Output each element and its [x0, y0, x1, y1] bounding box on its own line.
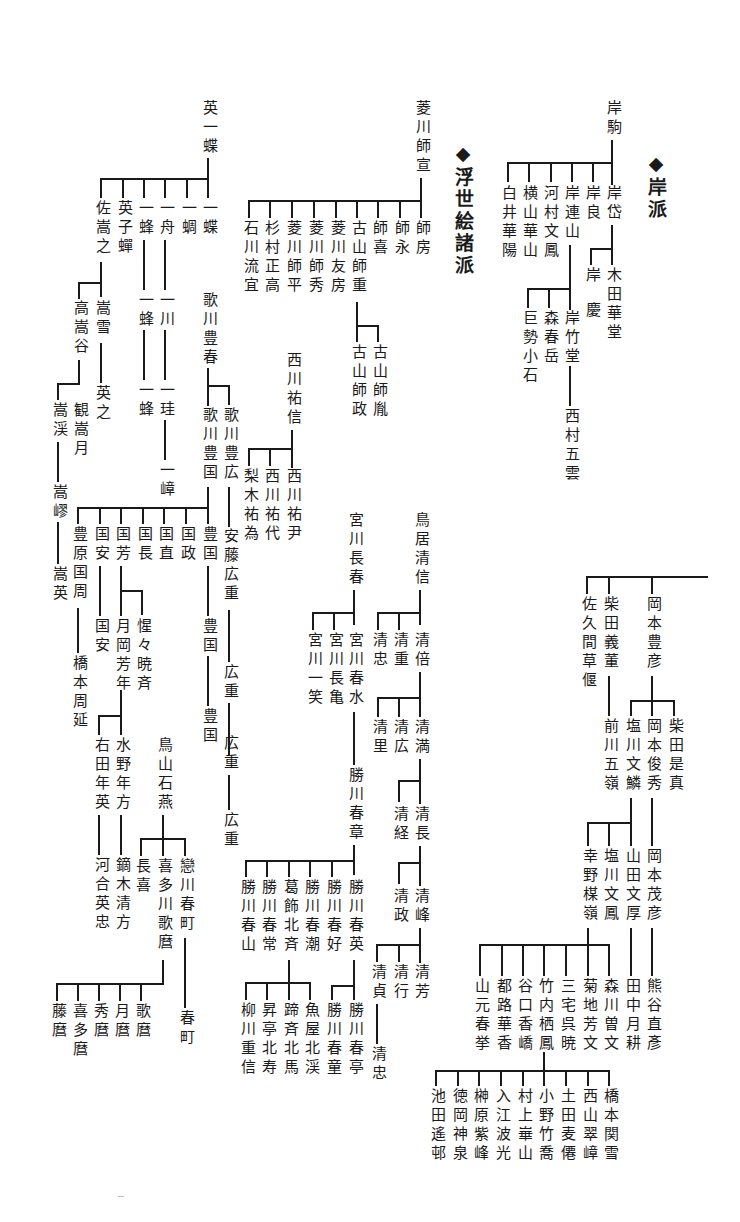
name-ishikawa-ryusen: 石川流宜 — [241, 220, 258, 296]
name-tanaka-gekko: 田中月耕 — [623, 978, 640, 1054]
name-hiroshige-3: 広重 — [221, 735, 238, 773]
name-kunimasa: 国政 — [178, 526, 195, 564]
name-kiyosada: 清貞 — [369, 964, 386, 1002]
name-tokuoka-shinsen: 徳岡神泉 — [450, 1088, 467, 1164]
name-yanagawa-shigenobu: 柳川重信 — [238, 1002, 255, 1078]
name-kiyotada-2: 清忠 — [369, 1046, 386, 1084]
name-furuyama-euromasa: 古山師政 — [349, 344, 366, 420]
heading-kishi-school: ◆岸派 — [645, 152, 667, 221]
name-shibata-zeshin: 柴田是真 — [666, 718, 683, 794]
name-yamamoto-shunkyo: 山元春挙 — [472, 978, 489, 1054]
name-kuninao: 国直 — [156, 526, 173, 564]
name-okamoto-shunshu: 岡本俊秀 — [644, 718, 661, 794]
name-kiyoyuki: 清行 — [391, 964, 408, 1002]
name-choki: 長喜 — [133, 858, 150, 896]
name-tsuchida-bakusen: 土田麦僊 — [558, 1088, 575, 1164]
name-itcho-2: 一蜩 — [179, 200, 196, 238]
name-kishi-gantai: 岸岱 — [604, 185, 621, 223]
name-hishikawa-morohide: 菱川師秀 — [306, 220, 323, 296]
name-suukei: 嵩渓 — [50, 402, 67, 440]
name-furuyama-morotane: 古山師胤 — [370, 344, 387, 420]
name-kiyomitsu: 清満 — [412, 719, 429, 757]
name-katsukawa-shunei: 勝川春英 — [346, 879, 363, 955]
name-miyagawa-choki: 宮川長亀 — [326, 632, 343, 708]
name-kono-bairei: 幸野楳嶺 — [580, 848, 597, 924]
name-sa-suushi: 佐嵩之 — [93, 200, 110, 257]
name-hidemaro: 秀麿 — [91, 1003, 108, 1041]
name-hashimoto-chikanobu: 橋本周延 — [70, 655, 87, 731]
name-okamoto-shigehiko: 岡本茂彦 — [644, 848, 661, 924]
name-utagawa-toyokuni: 歌川豊国 — [200, 407, 217, 483]
name-katsukawa-shunzan: 勝川春山 — [238, 879, 255, 955]
name-ippo-2: 一蜂 — [136, 292, 153, 330]
name-kuniyasu: 国安 — [92, 526, 109, 564]
name-migita-toshihide: 右田年英 — [92, 737, 109, 813]
name-katsukawa-shunjo: 勝川春常 — [259, 879, 276, 955]
name-hiroshige-4: 広重 — [221, 812, 238, 850]
name-kiyoshige: 清重 — [391, 632, 408, 670]
name-shiokawa-bunrin: 塩川文鱗 — [623, 718, 640, 794]
name-takeuchi-seiho: 竹内栖鳳 — [536, 978, 553, 1054]
name-hiroshige-2: 広重 — [221, 664, 238, 702]
name-kose-shoseki: 巨勢小石 — [520, 310, 537, 386]
name-mori-shungaku: 森春岳 — [541, 310, 558, 367]
name-kawamura-bunpo: 河村文鳳 — [541, 185, 558, 261]
name-morofusa: 師房 — [413, 220, 430, 258]
name-utamaro-2: 歌麿 — [133, 1003, 150, 1041]
name-toyohara-kunichika: 豊原国周 — [70, 526, 87, 602]
name-kiyomine: 清峰 — [412, 888, 429, 926]
name-kuniyoshi: 国芳 — [113, 526, 130, 564]
name-eishi: 英之 — [93, 385, 110, 423]
name-itcho: 一蝶 — [200, 200, 217, 238]
name-ikeda-yoson: 池田遙邨 — [428, 1088, 445, 1164]
name-moroyoshi: 師喜 — [370, 220, 387, 258]
name-katsukawa-shuncho: 勝川春潮 — [302, 879, 319, 955]
name-katsukawa-shunsho: 勝川春章 — [346, 767, 363, 843]
name-nashiki-suketame: 梨木祐為 — [241, 468, 258, 544]
name-tsuji-kako: 都路華香 — [494, 978, 511, 1054]
name-kishi-chikudo: 岸竹堂 — [562, 310, 579, 367]
name-fujimaro: 藤麿 — [49, 1003, 66, 1041]
name-suusetsu: 嵩雪 — [93, 300, 110, 338]
name-hashimoto-kansetsu: 橋本関雪 — [601, 1088, 618, 1164]
name-miyagawa-choshun: 宮川長春 — [346, 512, 363, 588]
name-kishi-ryo: 岸良 — [583, 185, 600, 223]
name-toyokuni-3: 豊国 — [200, 618, 217, 656]
name-toyokuni-4: 豊国 — [200, 708, 217, 746]
name-teisai-hokuba: 蹄斉北馬 — [281, 1002, 298, 1078]
name-ando-hiroshige: 安藤広重 — [221, 528, 238, 604]
name-tsukioka-yoshitoshi: 月岡芳年 — [113, 618, 130, 694]
name-katsushika-hokusai: 葛飾北斉 — [281, 879, 298, 955]
name-tsukimaro: 月麿 — [112, 1003, 129, 1041]
name-nishikawa-sukenobu: 西川祐信 — [284, 352, 301, 428]
name-toriyama-sekien: 鳥山石燕 — [155, 737, 172, 813]
name-kiyoyoshi: 清芳 — [412, 964, 429, 1002]
name-utagawa-toyohiro: 歌川豊広 — [221, 407, 238, 483]
name-torii-kiyonobu: 鳥居清信 — [412, 512, 429, 588]
name-taniguchi-kokyo: 谷口香嶠 — [515, 978, 532, 1054]
name-kuninaga: 国長 — [135, 526, 152, 564]
name-kiyotada: 清忠 — [370, 632, 387, 670]
name-morikawa-sobun: 森川曽文 — [601, 978, 618, 1054]
name-miyake-gogyo: 三宅呉暁 — [558, 978, 575, 1054]
name-shotei-hokuju: 昇亭北寿 — [259, 1002, 276, 1078]
name-murakami-kagaku: 村上崋山 — [515, 1088, 532, 1164]
name-shibata-gito: 柴田義董 — [601, 596, 618, 672]
name-hishikawa-tomofusa: 菱川友房 — [328, 220, 345, 296]
name-kumagai-naohiko: 熊谷直彥 — [644, 978, 661, 1054]
name-isshu: 一舟 — [157, 200, 174, 238]
name-ko-suukoku: 高嵩谷 — [71, 300, 88, 357]
name-kida-kado: 木田華堂 — [604, 267, 621, 343]
name-harumachi-2: 春町 — [177, 1010, 194, 1048]
name-shiokawa-bunpo: 塩川文鳳 — [601, 848, 618, 924]
name-ippo-3: 一蜂 — [136, 382, 153, 420]
name-kiyosato: 清里 — [370, 719, 387, 757]
name-nishikawa-sukeyo: 西川祐代 — [262, 468, 279, 544]
name-nishimura-goun: 西村五雲 — [562, 408, 579, 484]
name-hishikawa-moronobu: 菱川師宣 — [413, 100, 430, 176]
name-maekawa-gorei: 前川五嶺 — [601, 718, 618, 794]
name-irie-hako: 入江波光 — [493, 1088, 510, 1164]
name-kiyohiro: 清広 — [391, 719, 408, 757]
name-katsukawa-shuntei: 勝川春亭 — [346, 1002, 363, 1078]
name-ippo: 一蜂 — [136, 200, 153, 238]
